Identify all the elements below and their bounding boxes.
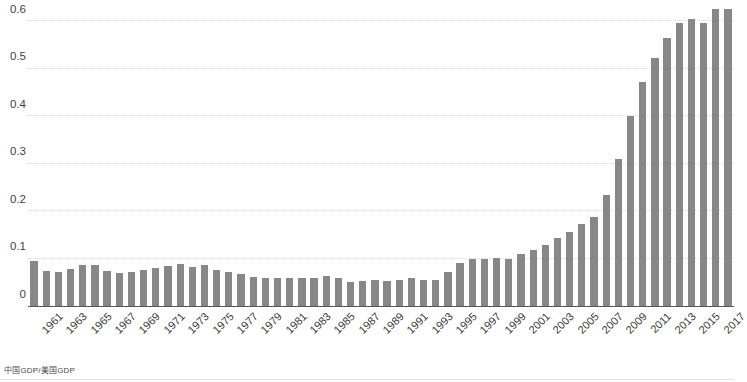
- chart-caption: 中国GDP/美国GDP: [4, 364, 75, 375]
- bar: [700, 23, 707, 306]
- bar: [688, 19, 695, 306]
- y-axis-tick-label: 0.4: [0, 99, 26, 111]
- bar: [177, 264, 184, 306]
- bar: [55, 272, 62, 306]
- bar: [140, 270, 147, 306]
- bar: [347, 282, 354, 306]
- bar: [30, 261, 37, 306]
- bar: [444, 272, 451, 306]
- bars-group: [28, 21, 734, 306]
- bar: [469, 259, 476, 307]
- x-axis-tick-label: 1973: [185, 310, 211, 336]
- x-axis-tick-label: 1965: [88, 310, 114, 336]
- bar: [152, 268, 159, 306]
- bar: [676, 23, 683, 306]
- bar: [408, 278, 415, 306]
- bar: [310, 278, 317, 306]
- bar: [578, 224, 585, 306]
- bar: [493, 258, 500, 306]
- plot-area: 00.10.20.30.40.50.6: [28, 21, 734, 306]
- bar: [481, 259, 488, 307]
- bar: [542, 245, 549, 306]
- bar: [213, 270, 220, 306]
- x-axis-tick-label: 1969: [137, 310, 163, 336]
- bar: [371, 280, 378, 306]
- y-axis-tick-label: 0: [0, 289, 26, 301]
- bar: [116, 273, 123, 306]
- x-axis-tick-label: 1981: [283, 310, 309, 336]
- y-axis-tick-label: 0.1: [0, 241, 26, 253]
- bar: [615, 159, 622, 306]
- bar: [262, 278, 269, 306]
- bar: [201, 265, 208, 306]
- bar: [712, 9, 719, 306]
- bar: [237, 274, 244, 306]
- x-axis-tick-label: 1987: [356, 310, 382, 336]
- bar: [298, 278, 305, 306]
- bar: [79, 265, 86, 306]
- bar: [554, 238, 561, 306]
- x-axis-tick-label: 1983: [307, 310, 333, 336]
- bar: [274, 278, 281, 306]
- bar: [103, 271, 110, 306]
- x-axis-tick-label: 2007: [599, 310, 625, 336]
- bar: [91, 265, 98, 306]
- bar: [323, 276, 330, 306]
- bar: [128, 272, 135, 306]
- bar: [286, 278, 293, 306]
- x-axis-tick-label: 2003: [550, 310, 576, 336]
- x-axis-tick-label: 1995: [453, 310, 479, 336]
- bar: [164, 266, 171, 306]
- x-axis-tick-label: 1977: [234, 310, 260, 336]
- bar: [517, 254, 524, 306]
- bar: [590, 217, 597, 306]
- x-axis-tick-label: 1979: [258, 310, 284, 336]
- x-axis-tick-label: 1967: [112, 310, 138, 336]
- x-axis-tick-label: 1993: [429, 310, 455, 336]
- bar: [432, 280, 439, 306]
- x-axis-tick-label: 1975: [210, 310, 236, 336]
- y-axis-tick-label: 0.3: [0, 146, 26, 158]
- bar: [335, 278, 342, 306]
- footer-divider: [0, 379, 734, 380]
- bar: [663, 38, 670, 306]
- x-axis-tick-label: 1961: [39, 310, 65, 336]
- x-axis-tick-label: 1999: [502, 310, 528, 336]
- x-axis-tick-label: 2005: [575, 310, 601, 336]
- x-axis-tick-label: 2009: [624, 310, 650, 336]
- bar: [603, 195, 610, 306]
- x-axis-tick-label: 1963: [64, 310, 90, 336]
- bar: [530, 250, 537, 306]
- x-axis-tick-label: 1997: [477, 310, 503, 336]
- bar: [456, 263, 463, 306]
- bar: [359, 281, 366, 306]
- bar: [639, 82, 646, 306]
- bar: [225, 272, 232, 306]
- y-axis-tick-label: 0.2: [0, 194, 26, 206]
- bar: [383, 281, 390, 306]
- bar: [651, 58, 658, 306]
- bar: [189, 267, 196, 306]
- x-axis-tick-labels: 1961196319651967196919711973197519771979…: [28, 306, 734, 366]
- bar: [43, 271, 50, 306]
- x-axis-tick-label: 2001: [526, 310, 552, 336]
- x-axis-tick-label: 1985: [331, 310, 357, 336]
- bar: [505, 259, 512, 307]
- bar: [724, 9, 731, 306]
- bar: [420, 280, 427, 306]
- x-axis-tick-label: 2013: [672, 310, 698, 336]
- x-axis-tick-label: 2015: [697, 310, 723, 336]
- y-axis-tick-label: 0.5: [0, 51, 26, 63]
- bar: [627, 116, 634, 306]
- bar: [67, 269, 74, 306]
- bar: [396, 280, 403, 306]
- bar: [566, 232, 573, 306]
- x-axis-tick-label: 2011: [648, 310, 673, 335]
- bar: [250, 277, 257, 306]
- x-axis-tick-label: 2017: [721, 310, 747, 336]
- x-axis-tick-label: 1989: [380, 310, 406, 336]
- x-axis-tick-label: 1971: [161, 310, 187, 336]
- y-axis-tick-label: 0.6: [0, 4, 26, 16]
- x-axis-tick-label: 1991: [404, 310, 430, 336]
